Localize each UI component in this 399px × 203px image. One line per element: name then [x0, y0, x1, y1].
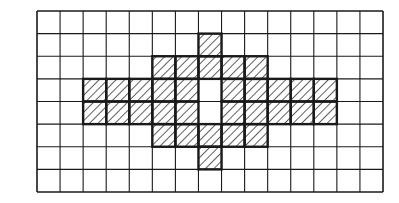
shaded-cell — [198, 147, 221, 170]
shaded-cell — [314, 79, 337, 102]
shaded-cell — [83, 79, 106, 102]
shaded-cell — [152, 79, 175, 102]
shaded-cell — [222, 102, 245, 125]
shaded-cell — [314, 102, 337, 125]
shaded-cell — [245, 124, 268, 147]
shaded-cell — [175, 102, 198, 125]
shaded-cell — [106, 79, 129, 102]
shaded-cell — [268, 102, 291, 125]
shaded-cell — [129, 79, 152, 102]
shaded-cell — [268, 79, 291, 102]
shaded-cell — [198, 56, 221, 79]
shaded-cell — [291, 102, 314, 125]
shaded-cell — [175, 56, 198, 79]
shaded-cell — [106, 102, 129, 125]
shaded-cell — [245, 102, 268, 125]
shaded-cell — [175, 79, 198, 102]
shaded-cell — [129, 102, 152, 125]
shaded-cell — [152, 56, 175, 79]
shaded-cell — [222, 124, 245, 147]
shaded-cell — [245, 56, 268, 79]
shaded-cell — [198, 124, 221, 147]
shaded-cell — [291, 79, 314, 102]
shaded-cell — [222, 79, 245, 102]
shaded-cell — [222, 56, 245, 79]
shaded-cell — [83, 102, 106, 125]
shaded-cell — [152, 124, 175, 147]
shaded-cell — [175, 124, 198, 147]
shaded-cell — [198, 34, 221, 57]
grid-diagram — [0, 0, 399, 203]
shaded-cell — [245, 79, 268, 102]
shaded-cell — [152, 102, 175, 125]
